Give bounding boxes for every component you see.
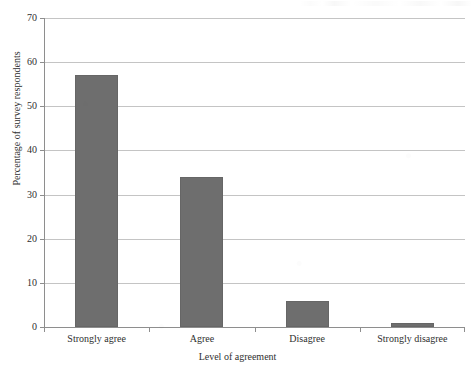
x-axis-category-label: Strongly disagree [360,334,465,344]
bar [75,75,118,327]
x-axis-category-label: Agree [149,334,254,344]
y-axis-line [44,18,45,328]
x-axis-tick [149,327,150,332]
plot-area [44,18,465,327]
y-axis-tick-label: 60 [27,57,37,67]
x-axis-tick [360,327,361,332]
bar [180,177,223,327]
bar-chart: 010203040506070 Strongly agreeAgreeDisag… [0,0,475,371]
gridline [44,62,465,63]
bar [286,301,329,327]
x-axis-category-label: Strongly agree [44,334,149,344]
y-axis-tick-label: 50 [27,101,37,111]
y-axis-tick-label: 20 [27,234,37,244]
bar [391,323,434,327]
x-axis-title: Level of agreement [0,351,475,362]
y-axis-tick-label: 70 [27,13,37,23]
y-axis-title: Percentage of survey respondents [11,44,22,194]
y-axis-tick-label: 0 [32,322,37,332]
y-axis-tick-label: 30 [27,190,37,200]
x-axis-tick [255,327,256,332]
gridline [44,18,465,19]
y-axis-tick-label: 10 [27,278,37,288]
x-axis-tick [464,327,465,332]
y-axis-tick-label: 40 [27,145,37,155]
page-bleed-through-artifact [300,1,472,6]
x-axis-category-label: Disagree [255,334,360,344]
